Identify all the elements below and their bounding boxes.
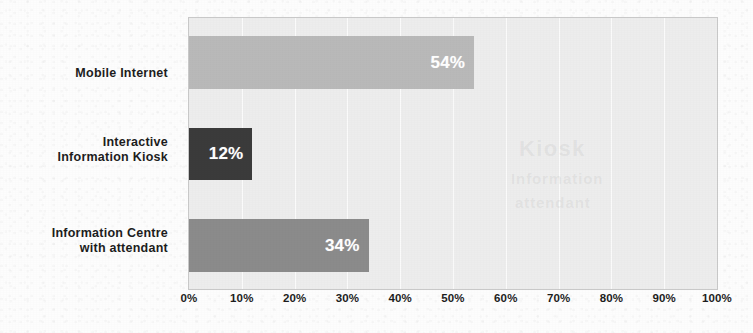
- x-tick-label: 40%: [389, 292, 412, 304]
- bar-value-label: 34%: [325, 236, 360, 256]
- bar-value-label: 12%: [209, 144, 244, 164]
- category-label-line: with attendant: [0, 241, 168, 256]
- category-label-line: Interactive: [0, 135, 168, 150]
- horizontal-bar-chart: Mobile Internet Interactive Information …: [0, 0, 753, 333]
- bar-value-label: 54%: [431, 53, 466, 73]
- category-label-information-centre-with-attendant: Information Centre with attendant: [0, 226, 168, 256]
- x-tick-label: 90%: [653, 292, 676, 304]
- x-tick-label: 60%: [494, 292, 517, 304]
- x-tick-label: 80%: [600, 292, 623, 304]
- ghost-text: Kiosk: [519, 136, 586, 162]
- ghost-text: attendant: [515, 194, 591, 211]
- plot-inner: Kiosk Information attendant 54% 12% 34%: [189, 18, 717, 289]
- bar-mobile-internet[interactable]: 54%: [189, 36, 474, 89]
- gridline: [664, 18, 665, 289]
- category-label-interactive-information-kiosk: Interactive Information Kiosk: [0, 135, 168, 165]
- x-tick-label: 10%: [230, 292, 253, 304]
- category-label-line: Information Centre: [0, 226, 168, 241]
- x-tick-label: 0%: [181, 292, 198, 304]
- plot-area: Kiosk Information attendant 54% 12% 34%: [188, 17, 718, 290]
- x-tick-label: 70%: [547, 292, 570, 304]
- x-tick-label: 50%: [441, 292, 464, 304]
- gridline: [611, 18, 612, 289]
- category-label-line: Information Kiosk: [0, 150, 168, 165]
- gridline: [559, 18, 560, 289]
- category-label-line: Mobile Internet: [0, 66, 168, 81]
- gridline: [506, 18, 507, 289]
- category-axis-labels: Mobile Internet Interactive Information …: [0, 17, 180, 290]
- ghost-text: Information: [511, 170, 603, 187]
- x-tick-label: 20%: [283, 292, 306, 304]
- x-tick-label: 30%: [336, 292, 359, 304]
- x-axis-tick-labels: 0%10%20%30%40%50%60%70%80%90%100%: [188, 292, 718, 314]
- category-label-mobile-internet: Mobile Internet: [0, 66, 168, 81]
- bar-interactive-information-kiosk[interactable]: 12%: [189, 128, 252, 180]
- x-tick-label: 100%: [702, 292, 732, 304]
- bar-information-centre-with-attendant[interactable]: 34%: [189, 219, 369, 272]
